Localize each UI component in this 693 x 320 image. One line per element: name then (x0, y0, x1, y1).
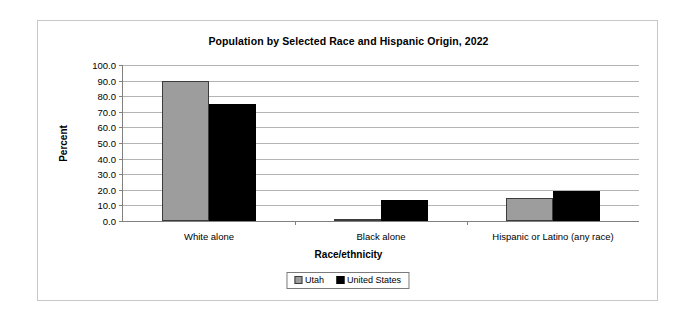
bar-united-states[interactable] (381, 200, 428, 221)
x-axis-title: Race/ethnicity (38, 249, 659, 260)
y-axis-tick-label: 60.0 (98, 122, 117, 133)
chart-title: Population by Selected Race and Hispanic… (38, 35, 659, 47)
plot-area: 100.090.080.070.060.050.040.030.020.010.… (122, 65, 639, 222)
chart-container: Population by Selected Race and Hispanic… (37, 20, 658, 301)
y-axis-title: Percent (56, 65, 70, 222)
bar-utah[interactable] (334, 219, 381, 221)
y-axis-tick-label: 30.0 (98, 169, 117, 180)
legend-swatch-icon (336, 276, 344, 284)
bar-group (467, 65, 639, 221)
y-axis-tick-label: 40.0 (98, 153, 117, 164)
x-axis-tick-label: Hispanic or Latino (any race) (492, 231, 613, 242)
chart-legend: UtahUnited States (286, 272, 409, 289)
bar-group (123, 65, 295, 221)
y-axis-tick-label: 80.0 (98, 91, 117, 102)
legend-item-utah[interactable]: Utah (294, 275, 324, 285)
bar-utah[interactable] (506, 198, 553, 221)
legend-swatch-icon (294, 276, 302, 284)
y-axis-tick-label: 10.0 (98, 200, 117, 211)
y-axis-tick (119, 221, 123, 222)
x-axis-tick-label: Black alone (356, 231, 405, 242)
y-axis-tick-label: 90.0 (98, 75, 117, 86)
y-axis-tick-label: 0.0 (103, 216, 116, 227)
bar-utah[interactable] (162, 81, 209, 221)
y-axis-tick-label: 50.0 (98, 138, 117, 149)
legend-label: Utah (305, 275, 324, 285)
legend-item-united-states[interactable]: United States (336, 275, 401, 285)
y-axis-tick-label: 20.0 (98, 184, 117, 195)
bar-united-states[interactable] (209, 104, 256, 221)
bar-group (295, 65, 467, 221)
y-axis-tick-label: 70.0 (98, 106, 117, 117)
y-axis-title-label: Percent (58, 125, 69, 162)
x-axis-tick (467, 221, 468, 225)
bar-united-states[interactable] (553, 191, 600, 221)
y-axis-tick-label: 100.0 (92, 60, 116, 71)
x-axis-tick (295, 221, 296, 225)
x-axis-tick-label: White alone (184, 231, 234, 242)
legend-label: United States (347, 275, 401, 285)
